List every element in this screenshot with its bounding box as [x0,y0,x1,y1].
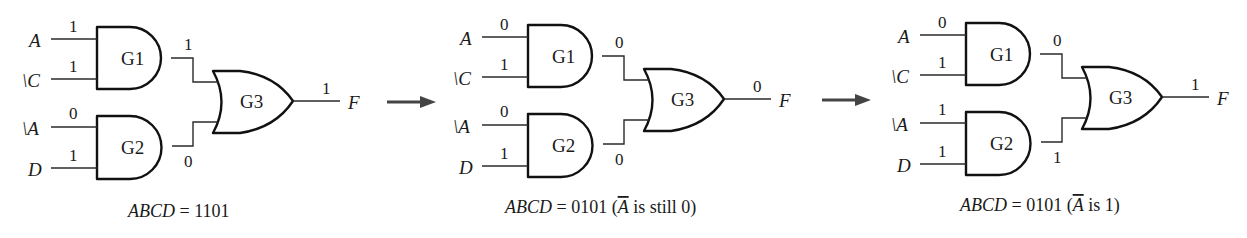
input-a-label: A [896,26,910,47]
input-d-label: D [27,159,42,180]
signal-g1-out-value: 0 [1053,31,1062,50]
signal-not-a-value: 1 [938,100,947,119]
signal-a-value: 0 [500,15,509,34]
caption-2: ABCD = 0101 (A is still 0) [504,197,696,218]
gate-g3-label: G3 [1109,87,1132,108]
circuit-wiring [920,23,1209,175]
signal-f-value: 1 [322,79,331,98]
gate-g3-label: G3 [671,89,694,110]
signal-a-value: 0 [938,13,947,32]
gate-g3-label: G3 [240,91,263,112]
input-not-a-label: \A [22,118,39,139]
gate-g2-label: G2 [552,135,575,156]
gate-g1-label: G1 [990,44,1013,65]
input-a-label: A [27,30,41,51]
input-not-c-label: \C [891,66,909,87]
input-a-label: A [458,28,472,49]
caption-3: ABCD = 0101 (A is 1) [959,195,1120,216]
caption-1: ABCD = 1101 [127,201,229,221]
caption-vars: ABCD [504,197,552,217]
logic-circuit-figure: G1 G2 G3 A \C \A D F 1 1 0 1 1 0 1 ABCD … [0,0,1247,238]
circuit-panel-3: G1 G2 G3 A \C \A D F 0 1 1 1 0 1 1 [891,13,1229,176]
circuit-panel-1: G1 G2 G3 A \C \A D F 1 1 0 1 1 0 1 ABCD … [22,17,360,221]
input-not-c-label: \C [22,70,40,91]
signal-f-value: 0 [753,77,762,96]
input-d-label: D [458,157,473,178]
circuit-wiring [482,25,771,177]
input-not-a-label: \A [453,116,470,137]
caption-note: is 1) [1084,195,1120,216]
caption-vars: ABCD [127,201,175,221]
output-f-label: F [778,90,791,111]
caption-eq: = 0101 ( [552,197,618,218]
signal-f-value: 1 [1191,75,1200,94]
signal-g2-out-value: 1 [1053,148,1062,167]
circuit-panel-2: G1 G2 G3 A \C \A D F 0 1 0 1 0 0 0 [453,15,791,178]
signal-not-a-value: 0 [500,102,509,121]
gate-g1-label: G1 [121,48,144,69]
gate-g2-label: G2 [990,133,1013,154]
input-not-a-label: \A [891,114,908,135]
gate-g1-label: G1 [552,46,575,67]
gate-g2-label: G2 [121,137,144,158]
signal-g1-out-value: 1 [184,35,193,54]
right-arrow-icon [387,96,436,108]
caption-note: is still 0) [629,197,697,218]
output-f-label: F [1216,88,1229,109]
circuit-wiring [51,27,340,179]
signal-d-value: 1 [938,142,947,161]
right-arrow-icon [822,94,871,106]
output-f-label: F [347,92,360,113]
signal-g2-out-value: 0 [184,152,193,171]
signal-not-c-value: 1 [938,53,947,72]
signal-d-value: 1 [69,146,78,165]
input-not-c-label: \C [453,68,471,89]
signal-g1-out-value: 0 [615,33,624,52]
caption-eq: = 1101 [175,201,229,221]
signal-g2-out-value: 0 [615,150,624,169]
caption-eq: = 0101 ( [1007,195,1073,216]
signal-not-c-value: 1 [69,57,78,76]
signal-not-c-value: 1 [500,55,509,74]
signal-a-value: 1 [69,17,78,36]
caption-vars: ABCD [959,195,1007,215]
signal-d-value: 1 [500,144,509,163]
signal-not-a-value: 0 [69,104,78,123]
input-d-label: D [896,155,911,176]
